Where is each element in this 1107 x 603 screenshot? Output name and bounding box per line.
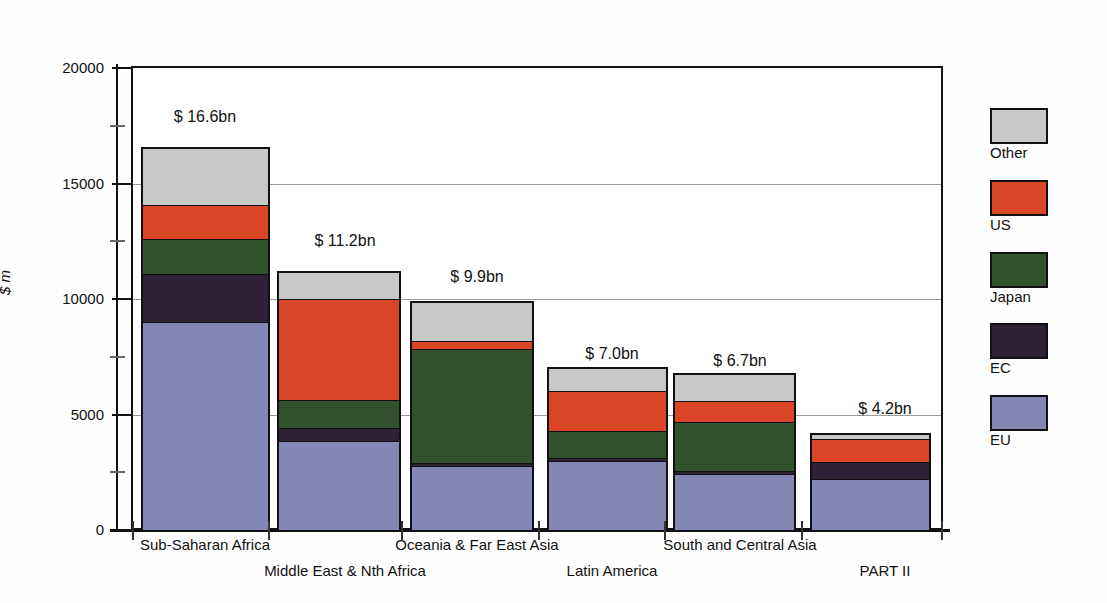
legend-swatch-icon: [990, 323, 1048, 359]
bar-stack[interactable]: [810, 433, 931, 530]
legend-item-us[interactable]: US: [990, 180, 1100, 233]
bar-total-label: $ 4.2bn: [825, 400, 945, 418]
y-axis-tick: [112, 298, 131, 300]
y-axis-minor-tick: [110, 471, 125, 473]
y-axis-tick-label: 15000: [42, 176, 104, 191]
y-axis-minor-tick: [110, 356, 125, 358]
x-axis-tick: [941, 521, 943, 540]
x-axis-category-label: Oceania & Far East Asia: [367, 536, 587, 553]
y-axis-title: $ m: [0, 270, 13, 295]
bar-stack[interactable]: [277, 271, 401, 530]
legend-swatch-icon: [990, 108, 1048, 144]
y-axis-tick: [112, 414, 131, 416]
bar-segment-us[interactable]: [143, 206, 268, 240]
bar-segment-japan[interactable]: [279, 401, 399, 430]
y-axis-tick-label: 10000: [42, 291, 104, 306]
bar-segment-other[interactable]: [675, 375, 794, 402]
bar-segment-other[interactable]: [279, 273, 399, 299]
bar-stack[interactable]: [141, 147, 270, 530]
bar-segment-eu[interactable]: [143, 323, 268, 530]
bar-segment-eu[interactable]: [812, 480, 929, 530]
x-axis-tick: [132, 521, 134, 540]
bar-segment-japan[interactable]: [549, 432, 666, 459]
bar-total-label: $ 7.0bn: [552, 345, 672, 363]
bar-segment-us[interactable]: [412, 342, 532, 350]
bar-total-label: $ 16.6bn: [145, 108, 265, 126]
x-axis-tick: [401, 521, 403, 540]
bar-segment-ec[interactable]: [143, 275, 268, 323]
legend-label: Other: [990, 145, 1100, 161]
bar-segment-eu[interactable]: [549, 462, 666, 530]
x-axis-category-label: Middle East & Nth Africa: [235, 562, 455, 579]
y-axis-tick-label: 20000: [42, 60, 104, 75]
legend-item-eu[interactable]: EU: [990, 395, 1100, 448]
x-axis-category-label: Sub-Saharan Africa: [95, 536, 315, 553]
bar-segment-eu[interactable]: [279, 442, 399, 530]
x-axis-category-label: Latin America: [502, 562, 722, 579]
bar-segment-japan[interactable]: [675, 423, 794, 472]
y-axis-minor-tick: [110, 240, 125, 242]
bar-segment-japan[interactable]: [143, 240, 268, 274]
bar-segment-other[interactable]: [143, 149, 268, 206]
chart-legend: OtherUSJapanECEU: [990, 108, 1100, 467]
bar-stack[interactable]: [547, 367, 668, 530]
bar-segment-ec[interactable]: [812, 463, 929, 480]
y-axis-tick: [112, 529, 131, 531]
y-axis-minor-tick: [110, 125, 125, 127]
bar-segment-us[interactable]: [812, 440, 929, 464]
legend-swatch-icon: [990, 252, 1048, 288]
bar-stack[interactable]: [410, 301, 534, 530]
legend-label: EU: [990, 432, 1100, 448]
legend-swatch-icon: [990, 395, 1048, 431]
bar-total-label: $ 11.2bn: [285, 232, 405, 250]
bar-segment-us[interactable]: [675, 402, 794, 423]
chart-page: 05000100001500020000 $ m $ 16.6bnSub-Sah…: [0, 0, 1107, 603]
legend-item-japan[interactable]: Japan: [990, 252, 1100, 305]
bar-segment-other[interactable]: [549, 369, 666, 392]
y-axis-labels: 05000100001500020000: [38, 0, 104, 603]
legend-swatch-icon: [990, 180, 1048, 216]
bar-segment-us[interactable]: [279, 300, 399, 401]
x-axis-category-label: South and Central Asia: [630, 536, 850, 553]
bar-segment-other[interactable]: [412, 303, 532, 342]
legend-item-other[interactable]: Other: [990, 108, 1100, 161]
x-axis-tick: [801, 521, 803, 540]
bar-stack[interactable]: [673, 373, 796, 530]
bar-segment-eu[interactable]: [675, 475, 794, 530]
bar-total-label: $ 9.9bn: [417, 268, 537, 286]
bar-segment-eu[interactable]: [412, 467, 532, 530]
y-axis-tick: [112, 67, 131, 69]
bar-total-label: $ 6.7bn: [680, 352, 800, 370]
y-axis-tick: [112, 183, 131, 185]
x-axis-tick: [538, 521, 540, 540]
bar-segment-us[interactable]: [549, 392, 666, 432]
bar-segment-ec[interactable]: [279, 429, 399, 442]
legend-label: US: [990, 217, 1100, 233]
legend-item-ec[interactable]: EC: [990, 323, 1100, 376]
bar-segment-japan[interactable]: [412, 350, 532, 463]
x-axis-tick: [268, 521, 270, 540]
legend-label: Japan: [990, 289, 1100, 305]
legend-label: EC: [990, 360, 1100, 376]
y-axis-tick-label: 5000: [42, 407, 104, 422]
y-axis-tick-label: 0: [42, 522, 104, 537]
x-axis-tick: [664, 521, 666, 540]
x-axis-category-label: PART II: [775, 562, 995, 579]
